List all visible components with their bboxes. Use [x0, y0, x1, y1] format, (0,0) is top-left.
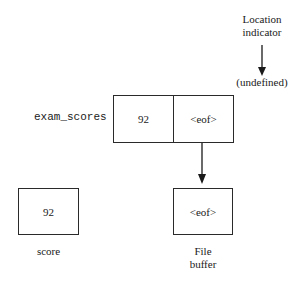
file-buffer-line2: buffer: [163, 258, 243, 271]
file-buffer-box: <eof>: [173, 188, 233, 235]
score-value: 92: [43, 206, 54, 218]
file-buffer-label: File buffer: [163, 245, 243, 271]
file-buffer-value: <eof>: [190, 206, 216, 218]
location-indicator-line2: indicator: [222, 26, 302, 39]
location-indicator-value: (undefined): [222, 76, 302, 89]
stream-box: 92 <eof>: [113, 95, 234, 143]
score-label: score: [18, 245, 79, 258]
buffer-arrow: [198, 142, 206, 184]
stream-cell-value: 92: [114, 96, 174, 142]
stream-name-label: exam_scores: [34, 111, 110, 123]
location-indicator-line1: Location: [222, 13, 302, 26]
location-indicator-arrow: [258, 45, 266, 76]
file-buffer-line1: File: [163, 245, 243, 258]
score-box: 92: [18, 188, 79, 235]
stream-cell-eof: <eof>: [174, 96, 233, 142]
location-indicator-label: Location indicator: [222, 13, 302, 39]
